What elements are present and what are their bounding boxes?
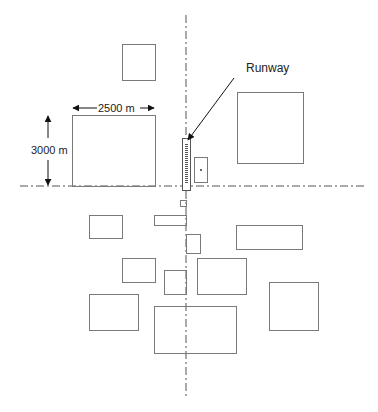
block-sw-2 xyxy=(123,259,156,283)
block-east-wide xyxy=(237,226,303,250)
block-dimensioned-large xyxy=(73,116,156,187)
block-far-east xyxy=(270,283,319,331)
block-small-se xyxy=(187,235,201,254)
runway-label: Runway xyxy=(246,62,289,74)
runway-pointer-arrow xyxy=(188,78,234,140)
runway xyxy=(183,78,235,191)
height-dimension-label: 3000 m xyxy=(31,144,68,156)
block-large-east xyxy=(238,93,304,164)
block-strip xyxy=(155,216,187,226)
terminal-marker-dot xyxy=(200,169,202,171)
building-blocks xyxy=(73,45,319,354)
block-sw-1 xyxy=(90,216,123,239)
block-center-small xyxy=(165,271,187,295)
block-top-square xyxy=(123,45,156,81)
block-south-large xyxy=(155,307,237,354)
block-center-east xyxy=(198,259,247,295)
site-plan-diagram xyxy=(0,0,378,412)
runway-hatch xyxy=(185,144,188,184)
width-dimension-label: 2500 m xyxy=(98,102,135,114)
block-sw-3 xyxy=(90,295,139,331)
